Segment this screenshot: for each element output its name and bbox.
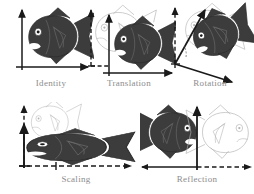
panel-label-identity: Identity — [8, 78, 94, 88]
panel-identity: Identity — [8, 4, 94, 96]
fish-shape-solid — [186, 2, 254, 66]
panel-reflection: Reflection — [140, 102, 254, 192]
translation-diagram — [86, 4, 176, 82]
panel-label-rotation: Rotation — [166, 78, 254, 88]
rotation-diagram — [166, 2, 254, 84]
fish-shape-solid — [27, 129, 135, 165]
panel-rotation: Rotation — [166, 2, 254, 96]
panel-translation: Translation — [86, 4, 172, 96]
fish-shape-solid — [140, 105, 196, 158]
identity-diagram — [8, 4, 94, 82]
panel-scaling: Scaling — [16, 102, 136, 192]
transformations-figure: Identity Translation — [0, 0, 254, 194]
panel-label-translation: Translation — [86, 78, 172, 88]
scaling-diagram — [16, 102, 136, 178]
fish-shape-solid — [29, 8, 94, 64]
panel-label-reflection: Reflection — [140, 174, 254, 184]
axes-dashed-reflected — [197, 164, 252, 170]
panel-label-scaling: Scaling — [16, 174, 136, 184]
reflection-diagram — [140, 102, 254, 178]
